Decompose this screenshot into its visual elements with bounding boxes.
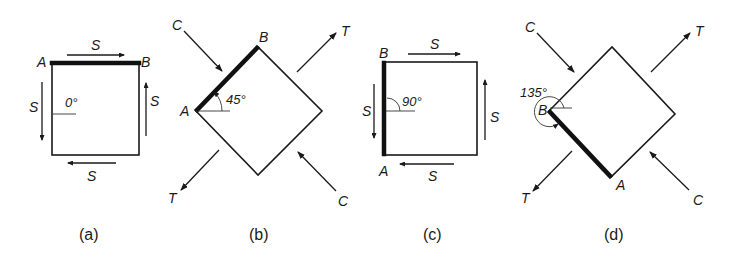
force-label-top: S xyxy=(91,37,101,53)
panel-a: 0° A B S S S S (a) xyxy=(29,37,160,243)
panel-caption: (b) xyxy=(249,226,269,243)
tension-arrow-top-right xyxy=(297,33,336,72)
force-label-bottom: S xyxy=(428,168,438,184)
force-label-right: S xyxy=(150,93,160,109)
element-square xyxy=(384,62,477,155)
compression-arrow-bottom-right xyxy=(298,152,336,191)
angle-arc xyxy=(214,92,222,111)
vertex-label-a: A xyxy=(615,177,625,193)
force-label-t-bottom-left: T xyxy=(168,190,178,206)
stress-element-diagram: 0° A B S S S S (a) 45° A B C C T T xyxy=(0,0,736,259)
panel-b: 45° A B C C T T (b) xyxy=(168,17,351,243)
force-label-c-bottom-right: C xyxy=(693,192,704,208)
edge-ab-highlight xyxy=(550,112,610,176)
angle-label: 0° xyxy=(65,95,77,110)
force-label-top: S xyxy=(430,36,440,52)
panel-caption: (d) xyxy=(604,226,624,243)
tension-arrow-top-right xyxy=(651,33,690,72)
force-label-t-top-right: T xyxy=(341,23,351,39)
force-label-bottom: S xyxy=(87,168,97,184)
force-label-c-top-left: C xyxy=(172,17,183,33)
compression-arrow-bottom-right xyxy=(650,152,689,190)
force-label-t-bottom-left: T xyxy=(521,190,531,206)
panel-d: 135° B A C C T T (d) xyxy=(520,19,705,243)
vertex-label-b: B xyxy=(259,29,268,45)
tension-arrow-bottom-left xyxy=(533,151,572,191)
panel-c: 90° B A S S S S (c) xyxy=(362,36,500,243)
tension-arrow-bottom-left xyxy=(181,150,219,190)
vertex-label-b: B xyxy=(538,102,547,118)
compression-arrow-top-left xyxy=(537,33,574,72)
angle-label: 90° xyxy=(402,94,422,109)
force-label-left: S xyxy=(362,103,372,119)
panel-caption: (a) xyxy=(79,226,99,243)
panel-caption: (c) xyxy=(423,226,442,243)
vertex-label-b: B xyxy=(379,45,388,61)
force-label-c-top-left: C xyxy=(525,19,536,35)
compression-arrow-top-left xyxy=(184,31,222,71)
force-label-t-top-right: T xyxy=(695,23,705,39)
vertex-label-b: B xyxy=(141,54,150,70)
force-label-left: S xyxy=(29,99,39,115)
force-label-right: S xyxy=(490,109,500,125)
force-label-c-bottom-right: C xyxy=(338,193,349,209)
angle-label: 135° xyxy=(520,85,547,100)
vertex-label-a: A xyxy=(36,54,46,70)
vertex-label-a: A xyxy=(378,163,388,179)
angle-arc xyxy=(387,98,400,111)
angle-label: 45° xyxy=(226,92,246,107)
vertex-label-a: A xyxy=(179,103,189,119)
